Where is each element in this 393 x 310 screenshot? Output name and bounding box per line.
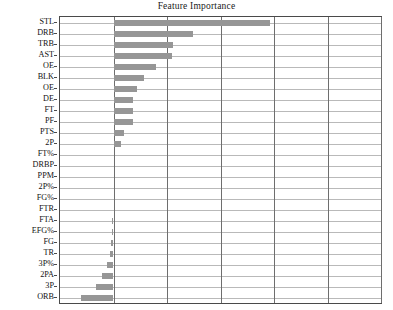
y-axis-tick-label: ORB	[0, 293, 54, 301]
y-axis-tick-mark	[54, 77, 57, 78]
y-axis-tick-label: AST	[0, 51, 54, 59]
y-axis-tick-mark	[54, 275, 57, 276]
y-axis-tick-label: DRB	[0, 29, 54, 37]
gridline-vertical	[381, 17, 382, 303]
y-axis-tick-mark	[54, 121, 57, 122]
feature-importance-chart: Feature Importance STLDRBTRBASTOEBLKOEDE…	[0, 0, 393, 310]
y-axis-tick-mark	[54, 209, 57, 210]
y-axis-tick-label: PF	[0, 117, 54, 125]
y-axis-tick-label: 3P	[0, 282, 54, 290]
bar	[112, 218, 113, 224]
y-axis-tick-mark	[54, 110, 57, 111]
y-axis-tick-mark	[54, 231, 57, 232]
y-axis-tick-mark	[54, 242, 57, 243]
chart-title: Feature Importance	[0, 1, 393, 11]
y-axis-tick-label: BLK	[0, 73, 54, 81]
y-axis-tick-label: TR	[0, 249, 54, 257]
y-axis-tick-mark	[54, 22, 57, 23]
bar	[102, 273, 113, 279]
y-axis-tick-label: EFG%	[0, 227, 54, 235]
y-axis-tick-mark	[54, 176, 57, 177]
y-axis-tick-mark	[54, 165, 57, 166]
y-axis-tick-mark	[54, 143, 57, 144]
y-axis-tick-label: STL	[0, 18, 54, 26]
bar	[112, 229, 114, 235]
bar	[81, 295, 113, 301]
y-axis-tick-label: 3P%	[0, 260, 54, 268]
y-axis-tick-mark	[54, 33, 57, 34]
bar	[96, 284, 114, 290]
y-axis-tick-mark	[54, 154, 57, 155]
y-axis-tick-mark	[54, 286, 57, 287]
plot-area	[59, 16, 382, 304]
bar	[107, 262, 114, 268]
y-axis-tick-label: FTA	[0, 216, 54, 224]
y-axis-tick-mark	[54, 253, 57, 254]
y-axis-tick-label: OE	[0, 62, 54, 70]
bars-layer	[60, 17, 381, 303]
y-axis-tick-label: FG%	[0, 194, 54, 202]
y-axis-tick-label: 2P%	[0, 183, 54, 191]
bar	[114, 97, 133, 103]
bar	[114, 119, 133, 125]
y-axis-tick-label: DE	[0, 95, 54, 103]
bar	[111, 240, 113, 246]
y-axis-tick-label: PPM	[0, 172, 54, 180]
bar	[114, 141, 122, 147]
y-axis-tick-label: FG	[0, 238, 54, 246]
y-axis-tick-mark	[54, 132, 57, 133]
y-axis-tick-label: 2P	[0, 139, 54, 147]
y-axis-tick-mark	[54, 264, 57, 265]
bar	[114, 130, 124, 136]
bar	[114, 42, 174, 48]
bar	[114, 86, 138, 92]
bar	[114, 53, 172, 59]
y-axis-tick-label: TRB	[0, 40, 54, 48]
y-axis-tick-mark	[54, 198, 57, 199]
bar	[114, 20, 270, 26]
y-axis-tick-label: OE	[0, 84, 54, 92]
y-axis-tick-label: FT%	[0, 150, 54, 158]
y-axis-tick-mark	[54, 88, 57, 89]
y-axis-tick-label: FTR	[0, 205, 54, 213]
bar	[114, 64, 157, 70]
y-axis-tick-mark	[54, 55, 57, 56]
y-axis-tick-mark	[54, 44, 57, 45]
y-axis-tick-mark	[54, 66, 57, 67]
bar	[114, 31, 194, 37]
y-axis-tick-mark	[54, 99, 57, 100]
y-axis-tick-label: DRBP	[0, 161, 54, 169]
bar	[114, 75, 145, 81]
y-axis-labels: STLDRBTRBASTOEBLKOEDEFTPFPTS2PFT%DRBPPPM…	[0, 16, 57, 304]
bar	[110, 251, 113, 257]
bar	[114, 108, 134, 114]
y-axis-tick-mark	[54, 220, 57, 221]
y-axis-tick-label: FT	[0, 106, 54, 114]
y-axis-tick-mark	[54, 187, 57, 188]
y-axis-tick-mark	[54, 297, 57, 298]
y-axis-tick-label: 2PA	[0, 271, 54, 279]
y-axis-tick-label: PTS	[0, 128, 54, 136]
